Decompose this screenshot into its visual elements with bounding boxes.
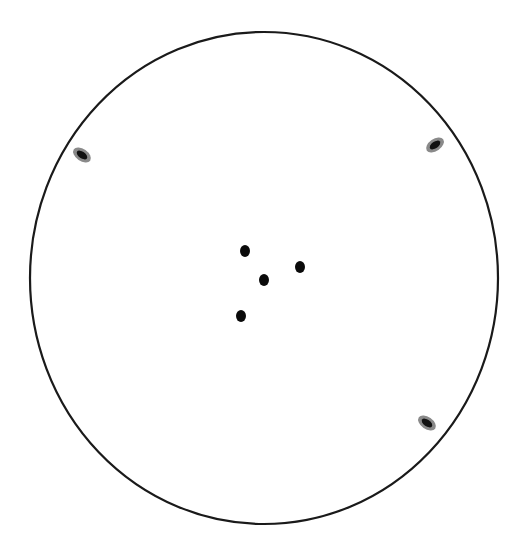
diagram-canvas: [0, 0, 521, 547]
center-dot: [240, 245, 250, 257]
edge-mark: [70, 144, 93, 165]
center-dots: [236, 245, 305, 322]
circle-diagram: [0, 0, 521, 547]
edge-mark: [423, 134, 446, 155]
center-dot: [259, 274, 269, 286]
edge-mark: [415, 412, 438, 433]
center-dot: [295, 261, 305, 273]
edge-marks: [70, 134, 446, 433]
center-dot: [236, 310, 246, 322]
